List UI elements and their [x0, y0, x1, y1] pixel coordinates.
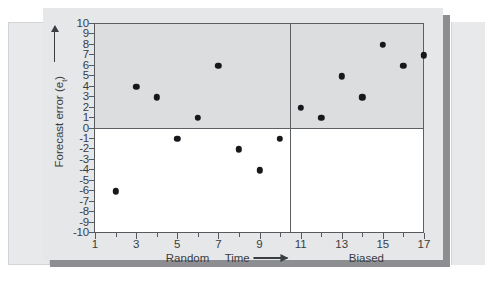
y-axis-tick-label: -10	[73, 226, 89, 238]
x-axis-minor-tick	[116, 233, 117, 237]
y-axis-tick	[89, 128, 95, 129]
y-axis-tick	[89, 75, 95, 76]
y-axis-tick	[89, 201, 95, 202]
y-axis-tick	[89, 96, 95, 97]
data-point	[174, 136, 180, 142]
y-axis-tick	[89, 54, 95, 55]
regime-divider-line	[290, 24, 291, 232]
x-axis-minor-tick	[198, 233, 199, 237]
data-point	[277, 136, 283, 142]
data-point	[421, 52, 427, 58]
y-axis-tick	[89, 107, 95, 108]
y-axis-tick	[89, 180, 95, 181]
x-axis-minor-tick	[321, 233, 322, 237]
figure-card: Forecast error (et) 109876543210-1-2-3-4…	[43, 8, 443, 260]
y-axis-tick	[89, 232, 95, 233]
plot-area	[95, 23, 424, 232]
y-axis-tick	[89, 148, 95, 149]
x-axis-caption-row: Time RandomBiased	[95, 240, 424, 262]
positive-region-shading	[95, 24, 423, 128]
y-axis-tick	[89, 23, 95, 24]
x-axis-minor-tick	[403, 233, 404, 237]
region-caption-biased: Biased	[349, 252, 384, 264]
y-axis-tick	[89, 138, 95, 139]
data-point	[236, 146, 242, 152]
y-axis-tick	[89, 211, 95, 212]
x-axis-title-group: Time	[225, 252, 288, 264]
x-axis-right-arrow-icon	[254, 257, 288, 259]
y-axis-tick	[89, 44, 95, 45]
zero-reference-line	[95, 128, 423, 129]
data-point	[256, 167, 262, 173]
y-axis-tick	[89, 117, 95, 118]
y-axis-tick-labels: 109876543210-1-2-3-4-5-6-7-8-9-10	[61, 23, 89, 232]
y-axis-tick	[89, 159, 95, 160]
x-axis-minor-tick	[157, 233, 158, 237]
x-axis-minor-tick	[280, 233, 281, 237]
x-axis-minor-tick	[239, 233, 240, 237]
y-axis-tick	[89, 86, 95, 87]
x-axis-title: Time	[225, 252, 250, 264]
background-panel-right	[451, 22, 485, 265]
x-axis-line	[95, 232, 424, 233]
y-axis-tick	[89, 65, 95, 66]
region-caption-random: Random	[166, 252, 209, 264]
y-axis-tick	[89, 222, 95, 223]
y-axis-tick	[89, 190, 95, 191]
y-axis-tick	[89, 33, 95, 34]
y-axis-tick	[89, 169, 95, 170]
x-axis-minor-tick	[362, 233, 363, 237]
data-point	[112, 188, 118, 194]
